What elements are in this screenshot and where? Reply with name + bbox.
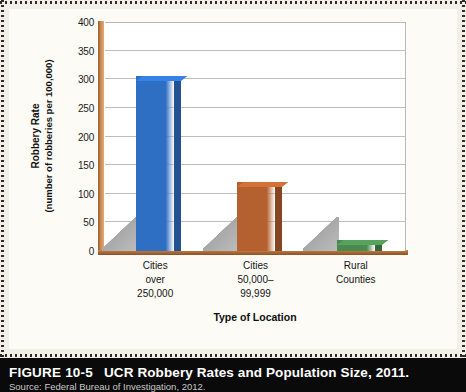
y-axis-title-line2: (number of robberies per 100,000)	[42, 59, 55, 212]
figure-source: Source: Federal Bureau of Investigation,…	[9, 381, 205, 392]
x-axis-category-label-line: Counties	[306, 273, 406, 287]
y-axis-tick-label: 350	[60, 45, 94, 56]
y-axis-tick-label: 200	[60, 131, 94, 142]
x-axis-category-label-line: over	[105, 273, 205, 287]
bar-side-face	[275, 187, 282, 251]
y-axis-tick-label: 150	[60, 160, 94, 171]
x-axis-category-label-line: Rural	[306, 259, 406, 273]
perforation-left-edge	[1, 0, 4, 360]
gridline	[105, 50, 405, 51]
y-axis-tick-label: 0	[60, 246, 94, 257]
figure-caption-bar: FIGURE 10-5UCR Robbery Rates and Populat…	[0, 358, 466, 392]
bar-front-face	[237, 182, 275, 251]
y-axis-tick-label: 50	[60, 217, 94, 228]
bar-shadow	[303, 217, 339, 251]
x-axis-category-label: RuralCounties	[306, 259, 406, 287]
bar-chart: Robbery Rate (number of robberies per 10…	[9, 9, 457, 349]
y-axis-tick-label: 100	[60, 188, 94, 199]
y-axis-tick-labels: 050100150200250300350400	[56, 22, 94, 250]
x-axis-category-label-line: Cities	[205, 259, 305, 273]
bar[interactable]	[136, 76, 174, 251]
y-axis-title: Robbery Rate (number of robberies per 10…	[25, 22, 59, 250]
x-axis-title: Type of Location	[105, 311, 405, 323]
x-axis-category-label-line: 99,999	[205, 287, 305, 301]
bar-shadow	[203, 217, 239, 251]
figure-page: Robbery Rate (number of robberies per 10…	[0, 0, 466, 392]
bar-top-face	[337, 240, 388, 245]
figure-card: Robbery Rate (number of robberies per 10…	[9, 9, 457, 349]
perforation-right-edge	[462, 0, 465, 360]
x-axis-category-labels: Citiesover250,000Cities50,000–99,999Rura…	[105, 259, 405, 309]
bar[interactable]	[237, 182, 275, 251]
y-axis-tick-label: 400	[60, 17, 94, 28]
x-axis-category-label-line: Cities	[105, 259, 205, 273]
y-axis-tick-label: 250	[60, 102, 94, 113]
x-axis-category-label: Cities50,000–99,999	[205, 259, 305, 301]
perforation-top-edge	[0, 1, 466, 4]
plot-area	[105, 22, 406, 251]
x-axis-category-label: Citiesover250,000	[105, 259, 205, 301]
bar-top-face	[136, 76, 187, 81]
x-axis-category-label-line: 250,000	[105, 287, 205, 301]
y-axis-title-line1: Robbery Rate	[29, 59, 42, 212]
figure-caption: FIGURE 10-5UCR Robbery Rates and Populat…	[9, 363, 409, 381]
y-axis-tick-label: 300	[60, 74, 94, 85]
bar-top-face	[237, 182, 288, 187]
bar-side-face	[375, 245, 382, 251]
bar-shadow	[102, 217, 138, 251]
bar-front-face	[136, 76, 174, 251]
figure-title: UCR Robbery Rates and Population Size, 2…	[104, 365, 409, 380]
bar[interactable]	[337, 240, 375, 251]
x-axis-category-label-line: 50,000–	[205, 273, 305, 287]
figure-number: FIGURE 10-5	[9, 365, 93, 380]
bar-side-face	[174, 81, 181, 251]
perforation-bottom-edge	[0, 354, 466, 357]
